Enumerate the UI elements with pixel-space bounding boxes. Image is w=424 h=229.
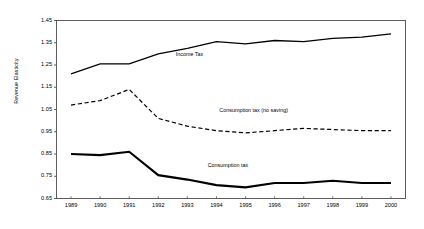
- plot-area: [0, 0, 424, 229]
- series-line-0: [71, 34, 391, 74]
- series-label-0: Income Tax: [176, 52, 203, 57]
- revenue-elasticity-chart: Revenue Elasticity 1.451.351.251.151.050…: [0, 0, 424, 229]
- series-label-2: Consumption tax: [208, 163, 248, 168]
- series-line-2: [71, 152, 391, 188]
- series-label-1: Consumption tax (no saving): [219, 108, 288, 113]
